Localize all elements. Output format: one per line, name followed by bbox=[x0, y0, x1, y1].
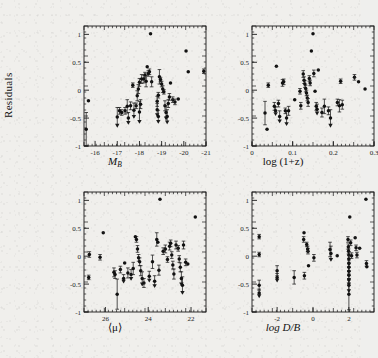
data-point bbox=[158, 198, 162, 202]
data-point bbox=[172, 272, 176, 276]
data-point bbox=[145, 65, 149, 69]
data-point bbox=[132, 109, 136, 113]
data-point bbox=[160, 82, 164, 86]
data-point bbox=[126, 105, 130, 109]
data-point bbox=[131, 83, 135, 87]
data-point bbox=[182, 243, 186, 247]
y-tick-label: -0.5 bbox=[238, 115, 250, 123]
data-point bbox=[159, 78, 163, 82]
data-point bbox=[312, 72, 316, 76]
data-point bbox=[315, 107, 319, 111]
x-axis-label-mu: ⟨μ⟩ bbox=[54, 321, 176, 334]
data-point bbox=[167, 102, 171, 106]
y-tick-label: 0.5 bbox=[72, 59, 81, 67]
y-tick-label: -1 bbox=[75, 309, 81, 317]
data-point bbox=[155, 100, 159, 104]
data-point bbox=[144, 80, 148, 84]
x-tick-label: -21 bbox=[201, 149, 211, 157]
data-point bbox=[257, 253, 261, 257]
data-point bbox=[139, 102, 143, 106]
y-tick-label: -0.5 bbox=[238, 281, 250, 289]
data-point bbox=[135, 238, 139, 242]
data-point bbox=[364, 198, 368, 202]
data-point bbox=[149, 32, 153, 36]
y-tick-label: 0 bbox=[78, 87, 82, 95]
data-point bbox=[174, 243, 178, 247]
data-point bbox=[148, 275, 152, 279]
y-tick-label: 0 bbox=[246, 253, 250, 261]
data-point bbox=[298, 90, 302, 94]
x-tick-label: 0.3 bbox=[370, 149, 378, 157]
data-point bbox=[306, 96, 310, 100]
data-point bbox=[98, 256, 102, 259]
data-point bbox=[305, 243, 309, 247]
data-point bbox=[347, 292, 351, 296]
y-tick-label: 1 bbox=[78, 197, 82, 205]
data-point bbox=[335, 254, 339, 258]
x-tick-label: 2 bbox=[347, 315, 351, 323]
data-point bbox=[267, 83, 271, 87]
data-point bbox=[306, 101, 310, 105]
data-point bbox=[257, 291, 261, 295]
data-point bbox=[302, 238, 306, 242]
data-point bbox=[157, 268, 161, 272]
data-point bbox=[113, 273, 117, 277]
data-point bbox=[87, 276, 91, 280]
data-point bbox=[88, 253, 92, 257]
panel-residuals-vs-mu: 262422-1-0.500.51 bbox=[54, 190, 210, 326]
data-points bbox=[257, 198, 369, 310]
data-point bbox=[135, 94, 139, 98]
data-point bbox=[285, 116, 289, 120]
data-point bbox=[305, 91, 309, 95]
data-point bbox=[129, 104, 133, 108]
y-tick-label: 0.5 bbox=[72, 225, 81, 233]
data-point bbox=[354, 246, 358, 250]
data-point bbox=[355, 253, 359, 257]
data-point bbox=[126, 271, 130, 275]
data-point bbox=[336, 101, 340, 105]
data-point bbox=[164, 247, 168, 251]
y-tick-label: 0.5 bbox=[240, 59, 249, 67]
y-tick-label: 0 bbox=[78, 253, 82, 261]
data-point bbox=[168, 95, 172, 99]
data-point bbox=[302, 78, 306, 82]
data-point bbox=[171, 263, 175, 267]
data-point bbox=[84, 128, 88, 132]
data-point bbox=[275, 269, 279, 273]
data-point bbox=[153, 280, 157, 284]
y-tick-label: -0.5 bbox=[70, 115, 82, 123]
data-point bbox=[299, 104, 303, 108]
data-point bbox=[304, 87, 308, 91]
data-point bbox=[194, 215, 198, 219]
data-point bbox=[349, 241, 353, 245]
plot-3: -202-1-0.500.51 bbox=[222, 190, 378, 326]
data-point bbox=[348, 215, 352, 219]
data-point bbox=[137, 87, 141, 91]
data-point bbox=[274, 109, 278, 113]
data-point bbox=[127, 116, 131, 120]
data-point bbox=[350, 254, 354, 258]
data-point bbox=[102, 231, 106, 235]
y-tick-label: -1 bbox=[75, 143, 81, 151]
data-point bbox=[308, 81, 312, 85]
y-tick-label: -0.5 bbox=[70, 281, 82, 289]
data-point bbox=[166, 258, 170, 262]
data-point bbox=[202, 69, 206, 73]
data-point bbox=[170, 253, 174, 257]
data-point bbox=[186, 262, 190, 266]
plot-0: -16-17-18-19-20-21-1-0.500.51 bbox=[54, 24, 210, 160]
data-point bbox=[257, 235, 261, 239]
data-point bbox=[122, 277, 126, 281]
data-point bbox=[323, 105, 327, 109]
data-point bbox=[275, 64, 279, 68]
x-axis-label-mb-text: MB bbox=[108, 155, 122, 167]
data-point bbox=[177, 257, 181, 261]
data-point bbox=[363, 87, 367, 91]
x-tick-label: 22 bbox=[188, 315, 196, 323]
data-point bbox=[275, 276, 279, 280]
y-tick-label: -1 bbox=[243, 309, 249, 317]
data-point bbox=[179, 266, 183, 270]
data-point bbox=[123, 109, 127, 113]
panel-residuals-vs-mb: -16-17-18-19-20-21-1-0.500.51 bbox=[54, 24, 210, 160]
